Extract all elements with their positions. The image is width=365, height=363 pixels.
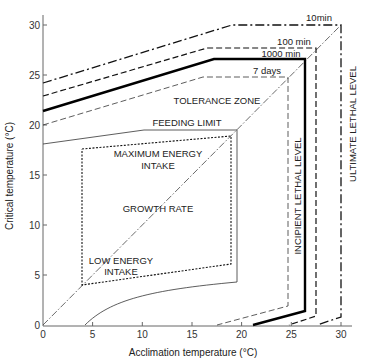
y-tick-20: 20 (29, 120, 41, 131)
x-tick-5: 5 (90, 329, 96, 340)
growth-rate-label: GROWTH RATE (123, 203, 194, 214)
y-tick-15: 15 (29, 170, 41, 181)
x-tick-10: 10 (137, 329, 149, 340)
x-tick-20: 20 (236, 329, 248, 340)
y-tick-30: 30 (29, 20, 41, 31)
low-energy-label-1: LOW ENERGY (89, 255, 154, 266)
y-tick-10: 10 (29, 220, 41, 231)
feeding-limit-lower-curve (85, 282, 237, 325)
incipient-lethal-label: INCIPIENT LETHAL LEVEL (292, 137, 303, 254)
y-axis-label: Critical temperature (°C) (4, 122, 15, 230)
x-tick-25: 25 (286, 329, 298, 340)
label-10min: 10min (306, 12, 332, 23)
ultimate-lethal-label: ULTIMATE LETHAL LEVEL (347, 66, 358, 182)
curve-100min (43, 48, 316, 325)
feeding-limit-label: FEEDING LIMIT (152, 117, 221, 128)
y-tick-labels: 0 5 10 15 20 25 30 (29, 20, 41, 331)
label-7days: 7 days (253, 65, 281, 76)
chart: 0 5 10 15 20 25 30 0 5 10 15 20 25 30 Ac… (0, 0, 365, 363)
label-100min: 100 min (277, 36, 311, 47)
tolerance-zone-label: TOLERANCE ZONE (174, 95, 261, 106)
x-tick-0: 0 (40, 329, 46, 340)
y-tick-25: 25 (29, 70, 41, 81)
y-tick-5: 5 (34, 270, 40, 281)
x-axis-label: Acclimation temperature (°C) (129, 347, 257, 358)
x-tick-15: 15 (186, 329, 198, 340)
max-energy-label-2: INTAKE (141, 160, 175, 171)
x-tick-labels: 0 5 10 15 20 25 30 (40, 329, 347, 340)
max-energy-label-1: MAXIMUM ENERGY (114, 148, 203, 159)
label-1000min: 1000 min (261, 48, 300, 59)
low-energy-label-2: INTAKE (104, 266, 138, 277)
x-tick-30: 30 (335, 329, 347, 340)
